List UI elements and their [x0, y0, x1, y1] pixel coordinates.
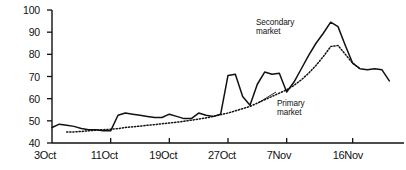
series-line-primary-market — [67, 45, 360, 131]
x-axis-ticks — [111, 138, 353, 143]
y-axis-tick-label: 70 — [14, 72, 40, 83]
x-axis-tick-label: 27Oct — [208, 150, 236, 161]
x-axis-tick-label: 7Nov — [267, 150, 291, 161]
x-axis-tick-label: 16Nov — [333, 150, 363, 161]
y-axis-tick-label: 90 — [14, 27, 40, 38]
x-axis-tick-label: 3Oct — [34, 150, 56, 161]
secondary-market-label-line1: Secondary — [256, 18, 294, 27]
y-axis-tick-label: 50 — [14, 116, 40, 127]
y-axis-tick-label: 80 — [14, 49, 40, 60]
primary-market-label-line2: market — [277, 108, 305, 117]
y-axis-tick-label: 40 — [14, 138, 40, 149]
y-axis-tick-label: 100 — [14, 5, 40, 16]
chart-plot-area — [0, 0, 406, 170]
annotation-leader-lines — [258, 92, 276, 103]
line-chart: 405060708090100 3Oct11Oct19Oct27Oct7Nov1… — [0, 0, 406, 170]
y-axis-tick-label: 60 — [14, 94, 40, 105]
secondary-market-label-line2: market — [256, 27, 294, 36]
primary-market-label: Primary market — [277, 99, 305, 118]
x-axis-tick-label: 11Oct — [91, 150, 118, 161]
primary-market-label-line1: Primary — [277, 99, 305, 108]
secondary-market-label: Secondary market — [256, 18, 294, 37]
primary-label-leader-line — [258, 92, 276, 103]
y-axis-ticks — [47, 10, 52, 143]
x-axis-tick-label: 19Oct — [149, 150, 177, 161]
